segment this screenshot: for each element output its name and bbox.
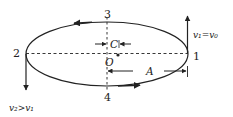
label-point-1: 1 (193, 50, 200, 63)
label-c: C (110, 38, 118, 50)
label-velocity-1: v₁=v₀ (193, 30, 218, 40)
label-point-3: 3 (104, 8, 111, 21)
label-velocity-2: v₂>v₁ (9, 103, 34, 113)
orbit-diagram: 3 4 2 1 O C A v₁=v₀ v₂>v₁ (0, 0, 233, 117)
orbit-direction-arrow-top (74, 22, 92, 23)
focus-point (116, 53, 119, 56)
orbit-direction-arrow-bottom (118, 85, 140, 86)
label-point-2: 2 (13, 47, 20, 60)
label-a: A (145, 65, 154, 77)
label-point-4: 4 (104, 91, 111, 104)
label-center-o: O (105, 56, 114, 68)
